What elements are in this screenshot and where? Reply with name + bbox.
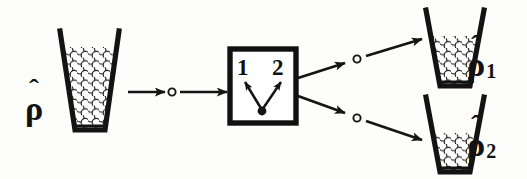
circle-node-icon-input	[168, 88, 175, 95]
label-output-rho-2: ̂ρ2	[467, 128, 496, 162]
outcome-label-1: 1	[237, 56, 249, 79]
upper-output-arrow	[298, 39, 422, 78]
circle-node-icon-lower	[353, 114, 360, 121]
input-arrow	[128, 88, 227, 95]
lower-output-arrow	[298, 96, 422, 140]
outcome-label-2: 2	[272, 56, 284, 79]
diagram-canvas	[0, 0, 527, 179]
label-output-rho-1: ̂ρ1	[467, 48, 496, 82]
branch-origin-dot-icon	[258, 107, 267, 116]
rho-glyph-output-1: ρ	[467, 46, 485, 83]
rho-glyph-input: ρ	[25, 90, 43, 127]
circle-node-icon-upper	[353, 55, 360, 62]
measurement-diagram-figure: ̂ρ ̂ρ1 ̂ρ2 1 2	[0, 0, 527, 179]
beaker-icon-input	[58, 31, 122, 131]
rho-glyph-output-2: ρ	[467, 126, 485, 163]
subscript-output-1: 1	[486, 60, 496, 82]
label-input-rho: ̂ρ	[25, 92, 43, 126]
subscript-output-2: 2	[486, 140, 496, 162]
